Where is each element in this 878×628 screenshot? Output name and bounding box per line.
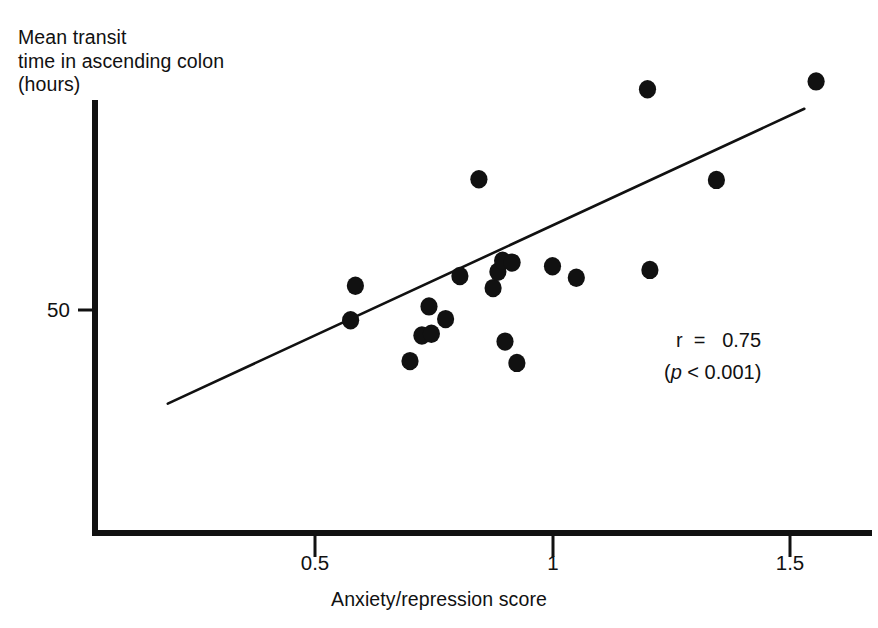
data-point — [342, 311, 359, 329]
data-point — [420, 297, 437, 315]
y-tick-label-50: 50 — [47, 298, 70, 322]
pvalue-close-paren: ) — [755, 361, 762, 383]
data-point — [808, 72, 825, 90]
pvalue-symbol: p — [671, 361, 682, 383]
statistics-annotation: r = 0.75 (p < 0.001) — [676, 324, 761, 388]
data-point — [496, 332, 513, 350]
x-axis-title: Anxiety/repression score — [0, 588, 878, 611]
data-point — [641, 261, 658, 279]
data-point — [401, 352, 418, 370]
pvalue-number: 0.001 — [705, 361, 755, 383]
data-point — [451, 267, 468, 285]
pvalue-operator: < — [687, 361, 699, 383]
data-point — [708, 171, 725, 189]
data-point — [437, 310, 454, 328]
scatter-plot-figure: Mean transit time in ascending colon (ho… — [0, 0, 878, 628]
pvalue-line: (p < 0.001) — [664, 356, 761, 388]
plot-canvas — [0, 0, 878, 628]
data-point — [470, 170, 487, 188]
correlation-label: r — [676, 329, 683, 351]
correlation-value: 0.75 — [722, 329, 761, 351]
x-tick-label-0.5: 0.5 — [301, 551, 330, 575]
data-point — [503, 253, 520, 271]
data-point — [423, 325, 440, 343]
data-point — [639, 80, 656, 98]
data-point — [544, 257, 561, 275]
data-point — [508, 354, 525, 372]
data-point — [347, 277, 364, 295]
correlation-line: r = 0.75 — [676, 324, 761, 356]
pvalue-open-paren: ( — [664, 361, 671, 383]
x-tick-label-1: 1 — [547, 551, 558, 575]
x-tick-label-1.5: 1.5 — [776, 551, 805, 575]
data-point — [568, 269, 585, 287]
data-point — [485, 279, 502, 297]
correlation-equals: = — [694, 329, 706, 351]
